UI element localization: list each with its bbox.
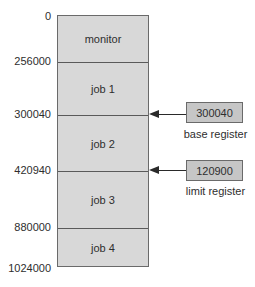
base-arrowhead-icon — [149, 110, 159, 118]
address-label-880000: 880000 — [14, 221, 51, 233]
limit-register-caption: limit register — [176, 185, 255, 197]
base-register-box: 300040 — [186, 102, 243, 123]
base-register-caption: base register — [176, 128, 255, 140]
address-label-256000: 256000 — [14, 55, 51, 67]
segment-label: job 3 — [91, 194, 115, 206]
segment-label: job 2 — [91, 138, 115, 150]
address-label-1024000: 1024000 — [8, 262, 51, 274]
address-label-300040: 300040 — [14, 108, 51, 120]
segment-job-2: job 2 — [58, 115, 148, 171]
limit-arrowhead-icon — [149, 166, 159, 174]
segment-monitor: monitor — [58, 16, 148, 62]
base-register-value: 300040 — [196, 107, 233, 119]
segment-job-4: job 4 — [58, 228, 148, 266]
segment-job-1: job 1 — [58, 62, 148, 115]
address-label-0: 0 — [45, 10, 51, 22]
limit-register-value: 120900 — [196, 165, 233, 177]
address-label-420940: 420940 — [14, 164, 51, 176]
segment-label: job 4 — [91, 242, 115, 254]
limit-register-box: 120900 — [186, 160, 243, 181]
segment-label: job 1 — [91, 83, 115, 95]
limit-arrow-line — [158, 170, 186, 171]
segment-label: monitor — [85, 33, 122, 45]
memory-block: monitor job 1 job 2 job 3 job 4 — [57, 15, 149, 267]
base-arrow-line — [158, 114, 186, 115]
segment-job-3: job 3 — [58, 171, 148, 228]
